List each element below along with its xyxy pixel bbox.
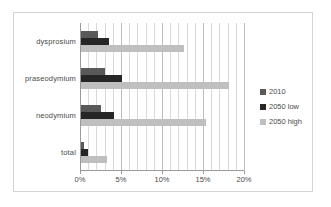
legend-label: 2050 low <box>269 102 299 111</box>
bar-group: praseodymium <box>81 68 244 89</box>
x-axis-tick-label: 20% <box>236 175 251 184</box>
bar <box>81 82 229 89</box>
bar-group: total <box>81 142 244 163</box>
chart-frame: dysprosiumpraseodymiumneodymiumtotal 0%5… <box>13 12 313 192</box>
x-axis-tick-label: 15% <box>195 175 210 184</box>
x-axis-tick-mark <box>80 171 81 174</box>
bar <box>81 68 105 75</box>
legend-label: 2050 high <box>269 117 302 126</box>
x-axis-tick-label: 10% <box>154 175 169 184</box>
legend-item[interactable]: 2050 high <box>260 114 320 129</box>
plot-area: dysprosiumpraseodymiumneodymiumtotal 0%5… <box>80 23 244 171</box>
legend-swatch-icon <box>260 89 266 95</box>
x-axis-tick-label: 5% <box>116 175 127 184</box>
x-axis-tick-label: 0% <box>75 175 86 184</box>
bar <box>81 38 109 45</box>
x-axis-tick-mark <box>121 171 122 174</box>
category-label: neodymium <box>36 111 76 120</box>
bar-group: dysprosium <box>81 31 244 52</box>
legend-item[interactable]: 2050 low <box>260 99 320 114</box>
category-label: praseodymium <box>25 74 76 83</box>
legend-label: 2010 <box>269 87 286 96</box>
bar <box>81 119 206 126</box>
x-axis-tick-mark <box>244 171 245 174</box>
bar <box>81 142 84 149</box>
bar <box>81 149 88 156</box>
category-label: dysprosium <box>36 37 76 46</box>
bar <box>81 156 107 163</box>
bar-group: neodymium <box>81 105 244 126</box>
legend-swatch-icon <box>260 119 266 125</box>
bar <box>81 105 101 112</box>
chart-figure: dysprosiumpraseodymiumneodymiumtotal 0%5… <box>0 0 331 207</box>
gridline-major <box>244 23 245 171</box>
chart-legend: 20102050 low2050 high <box>260 84 320 129</box>
x-axis-tick-mark <box>203 171 204 174</box>
bar <box>81 31 98 38</box>
legend-item[interactable]: 2010 <box>260 84 320 99</box>
bar <box>81 75 122 82</box>
x-axis-tick-mark <box>162 171 163 174</box>
legend-swatch-icon <box>260 104 266 110</box>
bar <box>81 112 114 119</box>
bar <box>81 45 184 52</box>
category-label: total <box>61 148 76 157</box>
